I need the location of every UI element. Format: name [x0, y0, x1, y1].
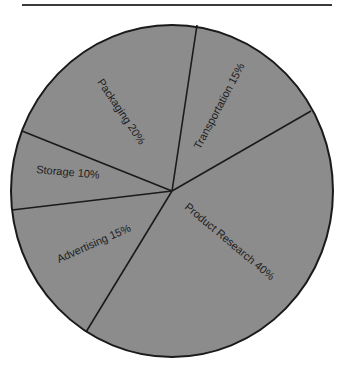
pie-chart: Packaging 20% Transportation 15% Storage…: [0, 0, 346, 373]
